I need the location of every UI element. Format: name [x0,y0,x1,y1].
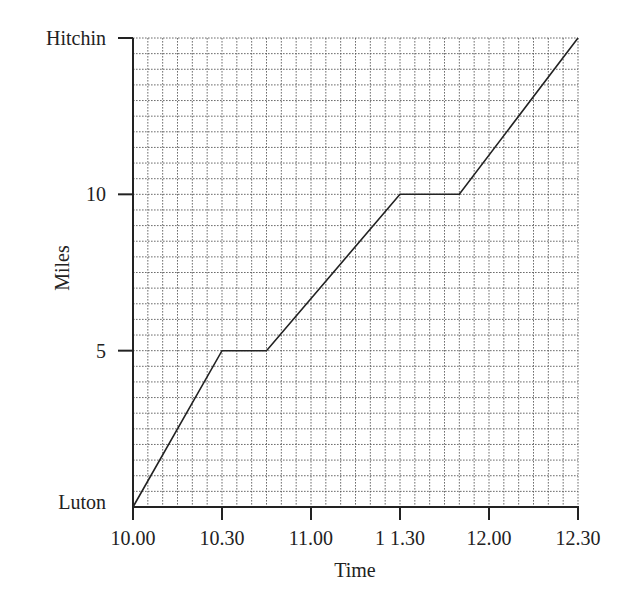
y-tick-label: 10 [86,183,106,205]
x-tick-label: 12.30 [556,527,601,549]
x-tick-label: 12.00 [467,527,512,549]
distance-time-chart: 10.0010.3011.001 1.3012.0012.30 Luton510… [0,0,628,603]
x-tick-label: 10.30 [200,527,245,549]
y-tick-label: Hitchin [46,27,106,49]
y-tick-label: Luton [58,491,106,513]
y-tick-label: 5 [96,340,106,362]
x-axis-label: Time [334,559,376,581]
y-axis-label: Miles [51,245,73,291]
x-ticks: 10.0010.3011.001 1.3012.0012.30 [111,507,601,549]
grid-lines [133,38,578,507]
x-tick-label: 1 1.30 [375,527,425,549]
x-tick-label: 10.00 [111,527,156,549]
x-tick-label: 11.00 [289,527,333,549]
